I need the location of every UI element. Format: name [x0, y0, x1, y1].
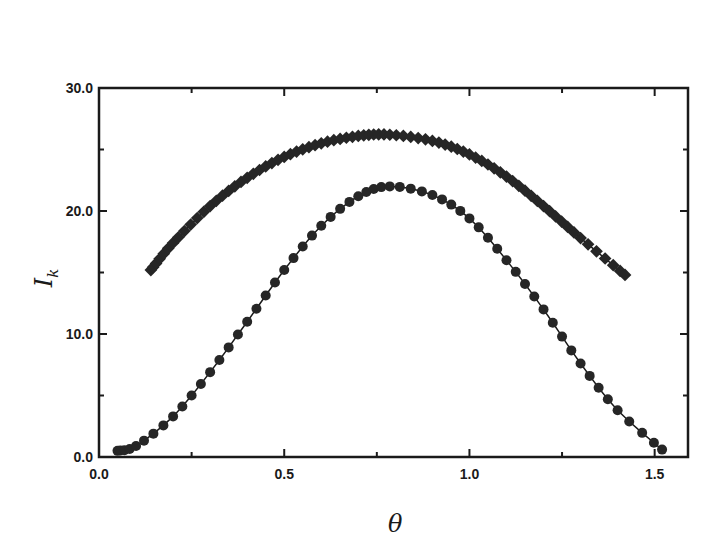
data-point	[242, 317, 252, 327]
data-point	[603, 394, 613, 404]
data-point	[417, 186, 427, 196]
data-point	[233, 330, 243, 340]
data-point	[427, 190, 437, 200]
data-point	[557, 332, 567, 342]
data-point	[139, 436, 149, 446]
series-upper-squares	[144, 128, 631, 281]
data-point	[548, 318, 558, 328]
x-tick-label: 0.5	[274, 466, 294, 482]
data-point	[288, 253, 298, 263]
chart: 0.00.51.01.50.010.020.030.0 θ Ik	[0, 0, 715, 548]
data-point	[395, 182, 405, 192]
data-point	[594, 383, 604, 393]
data-point	[298, 242, 308, 252]
data-point	[637, 428, 647, 438]
data-point	[158, 420, 168, 430]
x-axis-label: θ	[388, 510, 403, 538]
data-point	[376, 182, 386, 192]
tick-labels: 0.00.51.01.50.010.020.030.0	[66, 80, 665, 482]
data-point	[335, 204, 345, 214]
data-point	[224, 342, 234, 352]
data-point	[566, 345, 576, 355]
data-point	[148, 429, 158, 439]
data-point	[406, 184, 416, 194]
data-point	[344, 197, 354, 207]
y-tick-label: 30.0	[66, 80, 93, 96]
data-point	[511, 267, 521, 277]
data-point	[483, 233, 493, 243]
data-point	[177, 402, 187, 412]
svg-text:Ik: Ik	[30, 269, 62, 289]
y-axis-label: Ik	[30, 269, 62, 289]
data-point	[446, 200, 456, 210]
data-point	[657, 445, 667, 455]
data-point	[437, 194, 447, 204]
y-tick-label: 20.0	[66, 203, 93, 219]
data-point	[270, 277, 280, 287]
data-point	[576, 359, 586, 369]
x-tick-label: 1.0	[460, 466, 480, 482]
data-point	[196, 379, 206, 389]
data-point	[307, 231, 317, 241]
x-tick-label: 0.0	[89, 466, 109, 482]
data-point	[464, 213, 474, 223]
data-point	[529, 292, 539, 302]
x-tick-label: 1.5	[645, 466, 665, 482]
data-point	[455, 206, 465, 216]
data-point	[326, 212, 336, 222]
data-point	[279, 265, 289, 275]
data-point	[205, 367, 215, 377]
data-point	[649, 438, 659, 448]
data-point	[492, 244, 502, 254]
data-point	[539, 304, 549, 314]
y-tick-label: 10.0	[66, 326, 93, 342]
data-point	[168, 411, 178, 421]
data-point	[624, 417, 634, 427]
data-point	[585, 371, 595, 381]
y-tick-label: 0.0	[74, 449, 94, 465]
data-point	[187, 391, 197, 401]
data-point	[251, 304, 261, 314]
data-point	[214, 355, 224, 365]
data-point	[520, 279, 530, 289]
data-point	[316, 221, 326, 231]
data-point	[501, 255, 511, 265]
data-point	[613, 405, 623, 415]
data-point	[385, 181, 395, 191]
data-point	[261, 290, 271, 300]
data-point	[474, 222, 484, 232]
data-series	[113, 128, 668, 456]
